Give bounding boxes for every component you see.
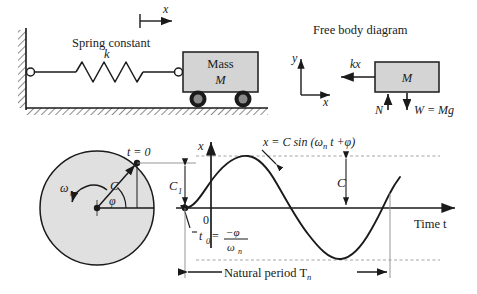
- weight-force-vector: W = Mg: [407, 93, 454, 117]
- equation-annotation: x = C sin (ωn t +φ): [262, 135, 355, 164]
- plot-x-axis-label: Time t: [414, 217, 447, 231]
- c1-subscript: 1: [178, 186, 182, 196]
- wall: [18, 28, 26, 110]
- figure-root: x Spring constant k Mass M Free body dia…: [0, 0, 477, 294]
- fbd-block: M: [375, 62, 439, 92]
- t0-label: t: [199, 229, 203, 243]
- omega-n-label: ω: [60, 181, 68, 195]
- mass-symbol: M: [214, 73, 226, 87]
- wheels: [190, 91, 252, 108]
- c1-measure: C 1: [169, 166, 185, 205]
- wall-pin: [27, 68, 35, 76]
- t-zero-label: t = 0: [127, 145, 150, 159]
- amplitude-label: C: [337, 175, 346, 190]
- t0-numerator: −φ: [226, 226, 240, 238]
- equation-label: x = C sin (ωn t +φ): [262, 135, 355, 151]
- ground: [26, 108, 268, 115]
- fbd-axis-x-label: x: [322, 95, 329, 109]
- plot-origin-label: 0: [203, 213, 209, 227]
- fbd-axis-y-label: y: [291, 51, 298, 65]
- displacement-axis-label: x: [162, 2, 169, 16]
- spring-force-vector: kx: [341, 57, 375, 77]
- cart-pin: [175, 68, 183, 76]
- t0-denominator-subscript: n: [238, 247, 242, 256]
- fbd-caption: Free body diagram: [313, 23, 408, 37]
- mass-body: Mass M: [183, 52, 258, 92]
- normal-force-vector: N: [374, 94, 388, 117]
- phasor-circle: ω n C φ: [40, 151, 154, 265]
- t0-annotation: t 0 = −φ ω n: [185, 212, 248, 256]
- phasor-radius-label: C: [110, 179, 119, 193]
- spring-force-label: kx: [350, 57, 361, 71]
- spring: k: [35, 47, 176, 82]
- phase-angle-label: φ: [109, 194, 116, 208]
- fbd-mass-symbol: M: [401, 71, 413, 85]
- natural-period-label: Natural period Tn: [224, 266, 311, 282]
- fbd-axes: y x: [291, 51, 330, 109]
- t0-denominator: ω: [227, 241, 235, 253]
- mass-label: Mass: [207, 57, 234, 71]
- normal-force-label: N: [374, 103, 384, 117]
- spring-constant-symbol: k: [104, 47, 110, 61]
- weight-force-label: W = Mg: [414, 103, 454, 117]
- displacement-indicator: x: [140, 2, 172, 28]
- natural-period-measure: Natural period Tn: [188, 263, 387, 282]
- spring-constant-caption: Spring constant: [72, 36, 151, 50]
- physics-figure: x Spring constant k Mass M Free body dia…: [0, 0, 477, 294]
- c1-label: C: [169, 179, 178, 193]
- t0-equals: =: [212, 229, 219, 243]
- omega-n-subscript: n: [70, 188, 74, 198]
- plot-y-axis-label: x: [197, 139, 204, 153]
- amplitude-measure: C: [337, 159, 346, 205]
